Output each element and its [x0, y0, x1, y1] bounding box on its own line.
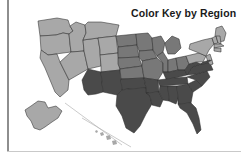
map-state-mn [136, 33, 153, 51]
map-state-mi [165, 36, 181, 54]
us-map-svg [0, 0, 241, 157]
map-state-ar [144, 78, 159, 93]
map-state-nm [101, 70, 122, 95]
map-state-wa [38, 18, 73, 36]
map-state-co [100, 53, 120, 72]
states-group [25, 18, 226, 145]
map-state-hi1 [95, 130, 98, 133]
map-figure: Color Key by Region [0, 0, 241, 157]
map-state-fl [178, 103, 201, 134]
map-state-ak [25, 101, 62, 130]
map-state-tx [116, 88, 152, 133]
map-state-sd [118, 45, 139, 58]
map-state-ny [189, 38, 214, 56]
map-state-al [168, 86, 178, 104]
us-region-map [0, 0, 241, 157]
map-state-az [82, 69, 103, 95]
map-state-hi3 [106, 135, 111, 140]
map-state-hi2 [100, 132, 104, 136]
map-state-mo [142, 58, 163, 80]
map-state-ct [214, 48, 221, 52]
alaska-inset-line [65, 103, 122, 145]
map-title: Color Key by Region [131, 7, 236, 19]
hawaii-inset-line [82, 118, 131, 147]
map-state-wy [98, 36, 118, 55]
map-state-nd [116, 34, 137, 47]
map-state-or [40, 33, 71, 55]
map-state-ma [214, 44, 224, 48]
map-state-ca [40, 50, 69, 97]
